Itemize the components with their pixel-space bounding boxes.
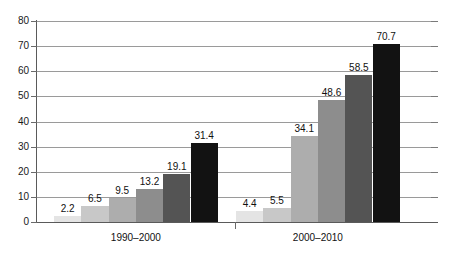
bar xyxy=(291,136,318,222)
y-tick-label-70: 70 xyxy=(3,41,29,51)
bars-layer: 2.26.59.513.219.131.44.45.534.148.658.57… xyxy=(36,21,437,222)
bar xyxy=(109,198,136,222)
y-tick-label-0: 0 xyxy=(3,217,29,227)
bar-chart: 01020304050607080 2.26.59.513.219.131.44… xyxy=(0,0,451,254)
category-label: 1990–2000 xyxy=(76,232,196,244)
bar xyxy=(54,216,81,222)
bar xyxy=(163,174,190,222)
bar-value-label: 31.4 xyxy=(185,131,224,141)
y-tick-label-30: 30 xyxy=(3,142,29,152)
y-tick-label-80: 80 xyxy=(3,16,29,26)
x-axis-line xyxy=(36,222,438,223)
group-separator-tick xyxy=(235,222,236,229)
category-label: 2000–2010 xyxy=(258,232,378,244)
bar xyxy=(81,206,108,222)
y-tick-label-60: 60 xyxy=(3,66,29,76)
bar xyxy=(373,44,400,222)
bar xyxy=(345,75,372,222)
y-tick-label-50: 50 xyxy=(3,91,29,101)
y-tick-0 xyxy=(31,222,37,223)
bar xyxy=(191,143,218,222)
bar xyxy=(318,100,345,222)
y-tick-label-10: 10 xyxy=(3,192,29,202)
bar-value-label: 70.7 xyxy=(367,32,406,42)
bar xyxy=(236,211,263,222)
y-tick-label-40: 40 xyxy=(3,117,29,127)
y-axis-tick-labels: 01020304050607080 xyxy=(0,0,29,254)
y-tick-label-20: 20 xyxy=(3,167,29,177)
bar xyxy=(263,208,290,222)
bar xyxy=(136,189,163,222)
